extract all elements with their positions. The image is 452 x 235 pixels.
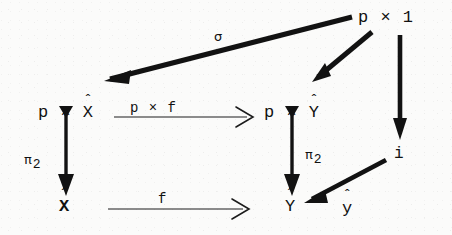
node-right-i-label: i [394, 145, 405, 163]
hat-accent-icon: ˆ [310, 94, 319, 108]
node-mid-right-hatted: ˆY [309, 104, 320, 121]
node-top-right-label: p × 1 [358, 8, 414, 27]
node-mid-right-prefix: p × [264, 103, 309, 122]
arrow-label-pi2-right-text: π [305, 147, 314, 162]
node-mid-left-hatted: ˆX [83, 104, 94, 121]
node-mid-left: p × ˆX [38, 104, 94, 121]
hat-accent-icon: ˆ [84, 94, 93, 108]
arrow-label-pi2-left-text: π [24, 152, 33, 167]
arrow-bottom-left-to-bottom-right [108, 199, 249, 219]
node-bottom-right-y: ˆy [342, 200, 353, 217]
node-bottom-right-hatted: ˆY [285, 198, 296, 215]
node-bottom-right: ˆY [285, 198, 296, 215]
diagram-canvas: p × 1 p × ˆX p × ˆY i ˆX ˆY ˆy σ p × f π… [0, 0, 452, 235]
arrow-top-right-to-i [393, 35, 407, 140]
hat-accent-icon: ˆ [286, 188, 295, 202]
arrow-label-pi2-left-sub: 2 [33, 157, 42, 172]
arrow-label-sigma-text: σ [214, 29, 223, 44]
hat-accent-icon: ˆ [343, 189, 352, 203]
node-bottom-left-hatted: ˆX [59, 198, 70, 215]
arrow-top-right-to-mid-right [312, 32, 372, 82]
arrow-label-p-times-f: p × f [130, 101, 177, 115]
node-top-right: p × 1 [358, 9, 414, 26]
arrow-label-pi2-right: π2 [305, 148, 323, 166]
arrow-label-f-text: f [158, 191, 167, 207]
arrow-sigma-top-right-to-mid-left [104, 17, 352, 84]
node-bottom-left: ˆX [59, 198, 70, 215]
arrow-label-f: f [158, 192, 167, 206]
node-bottom-right-y-hatted: ˆy [342, 200, 353, 217]
hat-accent-icon: ˆ [60, 188, 69, 202]
arrow-label-sigma: σ [214, 30, 223, 43]
node-mid-left-prefix: p × [38, 103, 83, 122]
arrow-label-p-times-f-text: p × f [130, 100, 177, 116]
arrow-label-pi2-left: π2 [24, 153, 42, 171]
node-mid-right: p × ˆY [264, 104, 320, 121]
node-right-i: i [394, 146, 405, 162]
arrow-label-pi2-right-sub: 2 [314, 152, 323, 167]
